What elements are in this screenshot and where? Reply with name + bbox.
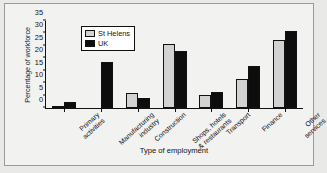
y-tick-label: 15 [24,57,46,66]
bar[interactable] [273,40,285,108]
chart-legend: St Helens UK [81,26,135,51]
bar[interactable] [285,31,297,108]
legend-item-0: St Helens [85,29,130,38]
bar-group [266,21,303,108]
y-tick-label: 20 [24,45,46,54]
bar-group [46,21,83,108]
bar[interactable] [163,44,175,108]
bar[interactable] [175,51,187,108]
bar-group [193,21,230,108]
bar[interactable] [64,102,76,108]
legend-label: UK [98,39,108,48]
y-tick-label: 35 [24,8,46,17]
x-axis-title: Type of employment [45,146,303,155]
bar-group [156,21,193,108]
y-tick-label: 0 [24,95,46,104]
y-tick-label: 30 [24,20,46,29]
y-tick-label: 10 [24,70,46,79]
bar-group [230,21,267,108]
y-tick-label: 25 [24,32,46,41]
x-tick-label: Otherservices [297,111,327,140]
bar[interactable] [101,62,113,108]
legend-swatch-icon [85,40,95,47]
bar[interactable] [138,98,150,108]
bar[interactable] [236,79,248,108]
legend-label: St Helens [98,29,130,38]
y-tick-label: 5 [24,82,46,91]
bar[interactable] [199,95,211,108]
legend-item-1: UK [85,39,130,48]
bar-chart: Percentage of workforce 05101520253035 P… [21,13,309,161]
bar[interactable] [126,93,138,108]
legend-swatch-icon [85,30,95,37]
figure-frame: Percentage of workforce 05101520253035 P… [4,3,314,166]
bar[interactable] [248,66,260,108]
bar[interactable] [52,106,64,108]
bar[interactable] [211,92,223,108]
